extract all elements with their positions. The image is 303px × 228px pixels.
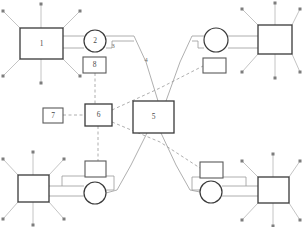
ray-line [292,9,300,25]
ray-endpoint-marker [2,10,5,13]
ray-endpoint-marker [79,75,82,78]
ray-endpoint-marker [32,224,35,227]
ray-endpoint-marker [63,218,66,221]
edge-label-3: 3 [111,42,114,49]
ray-endpoint-marker [2,218,5,221]
link-trcircle-bus-tap [192,41,204,48]
node-shape-rect[interactable] [258,177,289,203]
ray-line [242,161,258,177]
node-label: 8 [93,60,97,69]
ray-line [49,159,64,175]
ray-line [3,202,18,219]
ray-endpoint-marker [299,8,302,11]
ray-endpoint-marker [241,219,244,222]
node-node-tr-small[interactable] [203,58,226,73]
ray-endpoint-marker [32,151,35,154]
node-node-bl-small[interactable] [85,161,106,177]
ray-endpoint-marker [2,158,5,161]
node-shape-rect[interactable] [85,161,106,177]
ray-endpoint-marker [40,3,43,6]
node-node-8[interactable]: 8 [83,57,106,73]
ray-line [3,11,20,28]
ray-endpoint-marker [241,160,244,163]
ray-line [49,202,64,219]
ray-endpoint-marker [274,77,277,80]
ray-endpoint-marker [63,158,66,161]
schematic-diagram: 1 2 8 7 6 5 [0,0,303,227]
node-node-br-small[interactable] [200,162,223,178]
ray-endpoint-marker [241,71,244,74]
ray-endpoint-marker [79,10,82,13]
ray-line [242,54,258,72]
node-label: 2 [93,36,97,45]
ray-line [3,159,18,175]
ray-endpoint-marker [2,75,5,78]
ray-endpoint-marker [299,219,302,222]
node-shape-rect[interactable] [200,162,223,178]
node-node-bl-box[interactable] [18,175,49,202]
ray-line [242,9,258,25]
diagram-canvas: 1 2 8 7 6 5 [0,0,303,227]
ray-line [289,203,300,220]
node-node-5[interactable]: 5 [133,101,174,133]
ray-endpoint-marker [299,160,302,163]
node-shape-circle[interactable] [200,181,222,203]
node-shape-rect[interactable] [18,175,49,202]
node-node-br-box[interactable] [258,177,289,203]
node-node-1[interactable]: 1 [20,28,63,59]
node-node-2[interactable]: 2 [84,30,106,52]
link-5-crossing-left [106,133,147,193]
edge-label-4: 4 [144,56,148,63]
node-shape-rect[interactable] [258,25,292,54]
node-label: 1 [40,39,44,48]
ray-line [63,59,80,76]
ray-endpoint-marker [40,82,43,85]
node-label: 5 [152,112,156,121]
node-shape-rect[interactable] [203,58,226,73]
node-label: 7 [51,111,55,120]
ray-line [289,161,300,177]
node-node-6[interactable]: 6 [85,104,112,126]
node-label: 6 [97,110,101,119]
node-shape-circle[interactable] [84,182,106,204]
ray-endpoint-marker [241,8,244,11]
ray-line [292,54,300,72]
link-5-crossing-right [161,133,200,192]
ray-endpoint-marker [272,153,275,156]
link-2-bus-tap [106,41,134,48]
node-node-br-circle[interactable] [200,181,222,203]
ray-line [63,11,80,28]
ray-endpoint-marker [299,71,302,74]
node-node-tr-circle[interactable] [204,28,228,52]
ray-endpoint-marker [274,2,277,5]
ray-endpoint-marker [272,225,275,228]
ray-line [242,203,258,220]
node-node-bl-circle[interactable] [84,182,106,204]
node-node-7[interactable]: 7 [43,108,63,123]
ray-line [3,59,20,76]
node-node-tr-box[interactable] [258,25,292,54]
node-shape-circle[interactable] [204,28,228,52]
